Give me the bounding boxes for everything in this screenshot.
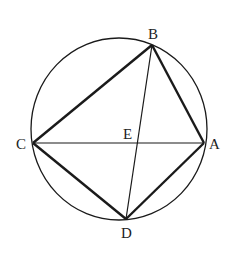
segment-ba: [152, 45, 204, 143]
label-point-e: E: [123, 126, 132, 142]
label-point-a: A: [209, 136, 220, 152]
label-point-c: C: [16, 136, 26, 152]
label-point-d: D: [121, 225, 132, 241]
segment-cb: [33, 45, 152, 143]
segment-ad: [126, 143, 204, 219]
label-point-b: B: [148, 26, 158, 42]
circumscribed-circle: [31, 38, 207, 220]
geometry-diagram: A B C D E: [0, 0, 234, 253]
